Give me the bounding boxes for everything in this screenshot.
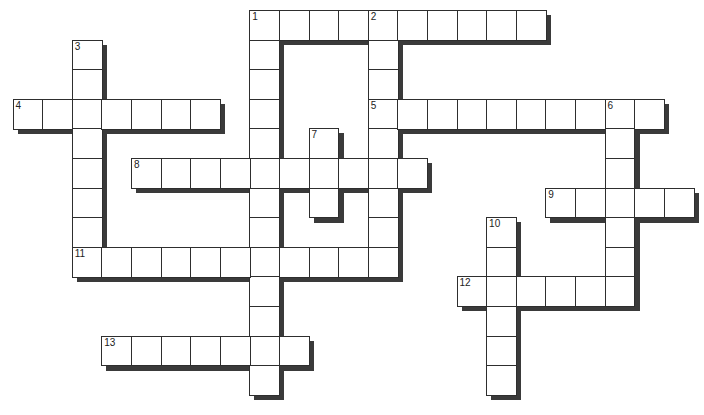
cell-letter-input[interactable]	[14, 100, 43, 129]
cell-letter-input[interactable]	[606, 218, 635, 247]
crossword-cell[interactable]	[249, 217, 280, 248]
crossword-cell[interactable]: 9	[545, 188, 576, 219]
cell-letter-input[interactable]	[546, 277, 575, 306]
crossword-cell[interactable]: 4	[13, 99, 44, 130]
crossword-cell[interactable]	[338, 10, 369, 41]
cell-letter-input[interactable]	[250, 366, 279, 395]
cell-letter-input[interactable]	[250, 70, 279, 99]
crossword-cell[interactable]: 2	[368, 10, 399, 41]
cell-letter-input[interactable]	[369, 159, 398, 188]
cell-letter-input[interactable]	[369, 100, 398, 129]
crossword-cell[interactable]	[190, 158, 221, 189]
crossword-cell[interactable]	[368, 188, 399, 219]
cell-letter-input[interactable]	[339, 11, 368, 40]
cell-letter-input[interactable]	[73, 41, 102, 70]
cell-letter-input[interactable]	[487, 366, 516, 395]
crossword-cell[interactable]	[249, 128, 280, 159]
cell-letter-input[interactable]	[73, 248, 102, 277]
cell-letter-input[interactable]	[102, 100, 131, 129]
cell-letter-input[interactable]	[487, 218, 516, 247]
cell-letter-input[interactable]	[250, 189, 279, 218]
crossword-cell[interactable]	[486, 365, 517, 396]
crossword-cell[interactable]	[279, 247, 310, 278]
cell-letter-input[interactable]	[102, 337, 131, 366]
crossword-cell[interactable]	[368, 158, 399, 189]
crossword-cell[interactable]: 12	[457, 276, 488, 307]
cell-letter-input[interactable]	[458, 100, 487, 129]
cell-letter-input[interactable]	[73, 100, 102, 129]
crossword-cell[interactable]	[309, 158, 340, 189]
crossword-cell[interactable]	[249, 158, 280, 189]
crossword-cell[interactable]	[72, 99, 103, 130]
crossword-cell[interactable]	[131, 99, 162, 130]
cell-letter-input[interactable]	[250, 129, 279, 158]
cell-letter-input[interactable]	[250, 218, 279, 247]
cell-letter-input[interactable]	[280, 337, 309, 366]
cell-letter-input[interactable]	[250, 307, 279, 336]
cell-letter-input[interactable]	[398, 11, 427, 40]
crossword-cell[interactable]	[72, 69, 103, 100]
crossword-cell[interactable]	[309, 247, 340, 278]
cell-letter-input[interactable]	[191, 337, 220, 366]
crossword-cell[interactable]	[516, 99, 547, 130]
cell-letter-input[interactable]	[132, 100, 161, 129]
crossword-cell[interactable]	[161, 336, 192, 367]
crossword-cell[interactable]	[131, 247, 162, 278]
cell-letter-input[interactable]	[250, 337, 279, 366]
crossword-cell[interactable]	[486, 247, 517, 278]
crossword-cell[interactable]	[427, 10, 458, 41]
cell-letter-input[interactable]	[73, 129, 102, 158]
crossword-cell[interactable]	[249, 40, 280, 71]
crossword-cell[interactable]	[249, 276, 280, 307]
crossword-cell[interactable]	[575, 276, 606, 307]
cell-letter-input[interactable]	[162, 337, 191, 366]
crossword-cell[interactable]	[249, 336, 280, 367]
crossword-cell[interactable]	[368, 40, 399, 71]
crossword-cell[interactable]	[42, 99, 73, 130]
crossword-cell[interactable]	[161, 158, 192, 189]
cell-letter-input[interactable]	[73, 159, 102, 188]
crossword-cell[interactable]	[249, 188, 280, 219]
cell-letter-input[interactable]	[280, 11, 309, 40]
crossword-cell[interactable]: 8	[131, 158, 162, 189]
cell-letter-input[interactable]	[369, 11, 398, 40]
cell-letter-input[interactable]	[458, 11, 487, 40]
crossword-cell[interactable]: 7	[309, 128, 340, 159]
crossword-cell[interactable]	[249, 306, 280, 337]
crossword-cell[interactable]	[397, 99, 428, 130]
crossword-cell[interactable]	[605, 276, 636, 307]
cell-letter-input[interactable]	[191, 100, 220, 129]
crossword-cell[interactable]	[338, 158, 369, 189]
crossword-cell[interactable]	[605, 247, 636, 278]
crossword-cell[interactable]	[516, 10, 547, 41]
crossword-cell[interactable]	[575, 188, 606, 219]
cell-letter-input[interactable]	[132, 337, 161, 366]
crossword-cell[interactable]: 3	[72, 40, 103, 71]
cell-letter-input[interactable]	[487, 337, 516, 366]
crossword-cell[interactable]	[368, 69, 399, 100]
crossword-cell[interactable]	[220, 336, 251, 367]
crossword-cell[interactable]	[249, 69, 280, 100]
cell-letter-input[interactable]	[576, 277, 605, 306]
crossword-cell[interactable]	[397, 10, 428, 41]
crossword-cell[interactable]	[605, 128, 636, 159]
cell-letter-input[interactable]	[162, 159, 191, 188]
crossword-cell[interactable]	[427, 99, 458, 130]
crossword-cell[interactable]	[368, 247, 399, 278]
crossword-cell[interactable]	[338, 247, 369, 278]
cell-letter-input[interactable]	[102, 248, 131, 277]
crossword-cell[interactable]	[545, 276, 576, 307]
crossword-cell[interactable]: 6	[605, 99, 636, 130]
cell-letter-input[interactable]	[635, 100, 664, 129]
cell-letter-input[interactable]	[162, 100, 191, 129]
crossword-cell[interactable]	[131, 336, 162, 367]
cell-letter-input[interactable]	[606, 159, 635, 188]
cell-letter-input[interactable]	[43, 100, 72, 129]
cell-letter-input[interactable]	[487, 248, 516, 277]
cell-letter-input[interactable]	[546, 189, 575, 218]
cell-letter-input[interactable]	[310, 11, 339, 40]
cell-letter-input[interactable]	[606, 129, 635, 158]
cell-letter-input[interactable]	[250, 248, 279, 277]
cell-letter-input[interactable]	[398, 100, 427, 129]
cell-letter-input[interactable]	[428, 100, 457, 129]
